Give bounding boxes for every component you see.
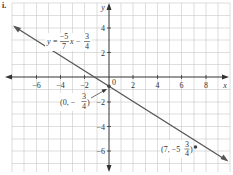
part-label: i. xyxy=(2,1,6,10)
equation-label: y = −5 7 x − 3 4 xyxy=(45,32,92,51)
equation-lhs: y = xyxy=(46,37,58,46)
annotation-num: 3 xyxy=(185,140,189,149)
x-axis-label: x xyxy=(222,81,227,90)
y-tick-label: 4 xyxy=(101,24,105,33)
y-tick-label: −4 xyxy=(96,123,105,132)
equation-frac2-den: 4 xyxy=(85,42,89,51)
y-axis-label: y xyxy=(100,3,105,12)
x-tick-labels: −6 −4 −2 2 4 6 8 xyxy=(32,81,208,90)
equation-frac2-num: 3 xyxy=(85,32,89,41)
equation-frac1-den: 7 xyxy=(62,42,66,51)
annotation-point-7: (7, −5 3 4 ) xyxy=(160,140,193,159)
annotation-close: ) xyxy=(87,98,90,107)
annotation-den: 4 xyxy=(82,102,86,111)
x-tick-label: 8 xyxy=(204,81,208,90)
line-end-arrow-icon xyxy=(221,155,229,162)
annotation-open: (7, −5 xyxy=(161,145,180,154)
x-tick-label: −2 xyxy=(80,81,89,90)
point-y-intercept xyxy=(107,84,111,88)
line-start-arrow-icon xyxy=(13,26,21,33)
annotation-arrow-icon xyxy=(102,89,108,93)
grid xyxy=(12,3,230,172)
equation-frac1-num: −5 xyxy=(60,32,69,41)
x-tick-label: 6 xyxy=(180,81,184,90)
annotation-den: 4 xyxy=(185,149,189,158)
y-tick-label: 2 xyxy=(101,49,105,58)
coordinate-plane: −6 −4 −2 2 4 6 8 4 2 −2 −4 −6 0 x y i. y… xyxy=(0,0,233,175)
y-axis-up-arrow-icon xyxy=(107,3,112,10)
annotation-close: ) xyxy=(190,145,193,154)
y-tick-label: −6 xyxy=(96,147,105,156)
x-axis-right-arrow-icon xyxy=(222,75,229,80)
x-tick-label: 2 xyxy=(131,81,135,90)
x-tick-label: −4 xyxy=(56,81,65,90)
x-axis-left-arrow-icon xyxy=(5,75,12,80)
y-axis-down-arrow-icon xyxy=(107,165,112,172)
annotation-open: (0, − xyxy=(60,98,76,107)
x-axis xyxy=(5,75,229,80)
y-tick-label: −2 xyxy=(96,98,105,107)
x-tick-label: −6 xyxy=(32,81,41,90)
point-7 xyxy=(194,145,198,149)
equation-mid: x − xyxy=(69,37,81,46)
annotation-num: 3 xyxy=(82,92,86,101)
origin-label: 0 xyxy=(112,78,116,87)
x-tick-label: 4 xyxy=(156,81,160,90)
